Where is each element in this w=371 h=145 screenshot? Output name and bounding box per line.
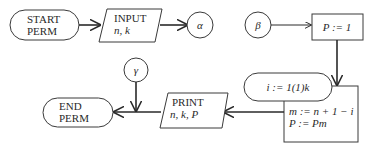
start-terminal: START PERM: [10, 10, 79, 40]
start-label-line2: PERM: [27, 25, 57, 37]
loop-label: i := 1(1)k: [267, 81, 311, 94]
beta-label: β: [254, 19, 261, 31]
gamma-connector: γ: [124, 58, 148, 82]
beta-connector: β: [245, 12, 271, 38]
print-label: PRINT: [172, 96, 204, 108]
gamma-label: γ: [134, 64, 139, 76]
perm-flowchart: START PERM INPUT n, k α β P := 1 m := n …: [0, 0, 371, 145]
end-label-line2: PERM: [59, 112, 89, 124]
loop-terminal: i := 1(1)k: [244, 73, 332, 101]
print-parallelogram: PRINT n, k, P: [160, 93, 228, 128]
body-line1: m := n + 1 − i: [289, 105, 353, 117]
print-vars: n, k, P: [170, 108, 198, 120]
start-label-line1: START: [27, 13, 61, 25]
alpha-label: α: [197, 19, 203, 31]
init-label: P := 1: [322, 21, 352, 33]
alpha-connector: α: [187, 12, 213, 38]
input-label: INPUT: [114, 12, 147, 24]
input-parallelogram: INPUT n, k: [99, 9, 162, 42]
end-terminal: END PERM: [43, 98, 113, 127]
input-vars: n, k: [114, 24, 131, 36]
body-line2: P := Pm: [288, 117, 327, 129]
init-process-box: P := 1: [312, 14, 363, 40]
end-label-line1: END: [59, 100, 82, 112]
